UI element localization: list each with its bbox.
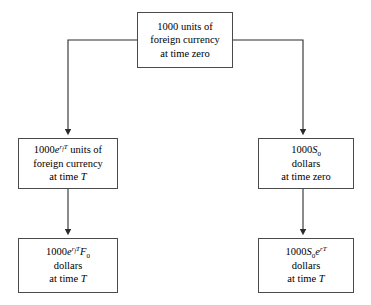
box-bottom-right-line1: 1000S0erT — [285, 245, 326, 259]
connector-top-to-mid-right — [233, 40, 303, 132]
box-top-line3: at time zero — [160, 47, 210, 61]
box-bottom-left-time-var: T — [81, 273, 87, 284]
box-bottom-right-exp-time: T — [323, 245, 327, 253]
box-mid-left-time-var: T — [81, 171, 87, 182]
box-bottom-right-time-var: T — [319, 273, 325, 284]
box-mid-left-prefix: 1000 — [34, 144, 55, 155]
box-mid-left-exponent: rfT — [60, 143, 68, 151]
box-bottom-right-line3: at time T — [287, 272, 324, 286]
box-initial-foreign-currency: 1000 units of foreign currency at time z… — [137, 12, 233, 68]
box-mid-left-line1: 1000erfT units of — [34, 143, 102, 157]
box-mid-left-line3: at time T — [49, 170, 86, 184]
box-top-units-label: units of — [178, 21, 212, 32]
flowchart-canvas: 1000 units of foreign currency at time z… — [0, 0, 371, 305]
box-bottom-left-line2: dollars — [54, 259, 83, 273]
box-bottom-right-time-label: at time — [287, 273, 319, 284]
box-top-amount: 1000 — [157, 21, 178, 32]
box-mid-right-prefix: 1000 — [291, 144, 312, 155]
connector-top-to-mid-left — [68, 40, 137, 132]
box-mid-right-line1: 1000S0 — [291, 143, 321, 157]
box-bottom-right-prefix: 1000 — [285, 246, 306, 257]
box-grown-foreign-currency: 1000erfT units of foreign currency at ti… — [18, 138, 118, 189]
box-mid-left-line2: foreign currency — [33, 157, 103, 171]
box-mid-left-time-label: at time — [49, 171, 81, 182]
box-mid-left-suffix: units of — [68, 144, 102, 155]
box-bottom-right-line2: dollars — [292, 259, 321, 273]
box-bottom-left-prefix: 1000 — [46, 246, 67, 257]
box-mid-right-line2: dollars — [292, 157, 321, 171]
box-bottom-left-exponent: rfT — [72, 245, 80, 253]
box-bottom-left-line1: 1000erfTF0 — [46, 245, 90, 259]
box-grown-dollars: 1000S0erT dollars at time T — [258, 238, 354, 293]
box-top-line1: 1000 units of — [157, 20, 212, 34]
box-bottom-right-exponent: rT — [320, 245, 327, 253]
box-forward-contract-dollars: 1000erfTF0 dollars at time T — [18, 238, 118, 293]
box-bottom-left-line3: at time T — [49, 272, 86, 286]
box-bottom-left-time-label: at time — [49, 273, 81, 284]
box-top-line2: foreign currency — [150, 33, 220, 47]
box-initial-dollars: 1000S0 dollars at time zero — [258, 138, 354, 189]
box-bottom-left-forward-sub: 0 — [86, 252, 90, 260]
box-mid-right-line3: at time zero — [281, 170, 331, 184]
